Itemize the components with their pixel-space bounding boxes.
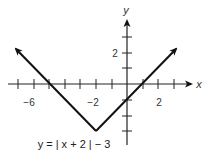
y-tick-label-2: 2 [112, 48, 118, 59]
left-branch [16, 49, 96, 131]
x-axis-label: x [195, 78, 202, 90]
x-tick-label-neg2: −2 [87, 97, 99, 108]
x-tick-label-neg6: −6 [23, 97, 35, 108]
right-branch [96, 49, 176, 131]
x-tick-label-2: 2 [156, 97, 162, 108]
y-axis-label: y [122, 4, 130, 16]
function-graph [16, 49, 176, 131]
x-axis: −6 −2 2 x [8, 78, 202, 108]
absolute-value-graph: −6 −2 2 x 2 y y = | x + 2 | − 3 [0, 0, 211, 159]
y-axis: 2 y [112, 4, 132, 145]
equation-label: y = | x + 2 | − 3 [38, 138, 111, 150]
